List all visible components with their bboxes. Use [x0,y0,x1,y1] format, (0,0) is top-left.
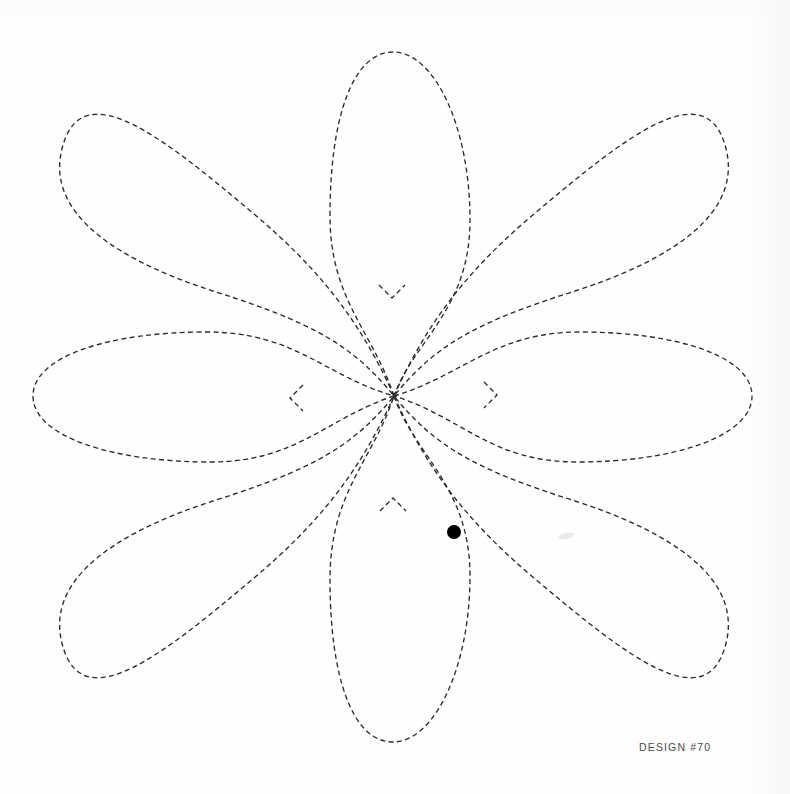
start-point-marker [447,525,461,539]
cusp-top [379,285,405,298]
petal-petal-bottom [330,396,470,742]
design-sheet: DESIGN #70 [0,0,790,794]
cusp-right [484,382,497,408]
design-caption: DESIGN #70 [639,741,711,753]
petal-petal-left [33,332,394,462]
pattern-canvas [0,0,790,794]
marker-group [447,525,461,539]
cusp-bottom [380,498,406,511]
petal-petal-right [394,332,752,462]
petal-petal-top-right [394,114,728,396]
petal-petal-bottom-left [60,396,394,678]
petal-petal-top [330,52,470,396]
petal-petal-top-left [60,114,394,396]
petal-group [33,52,752,742]
cusp-left [290,385,303,411]
